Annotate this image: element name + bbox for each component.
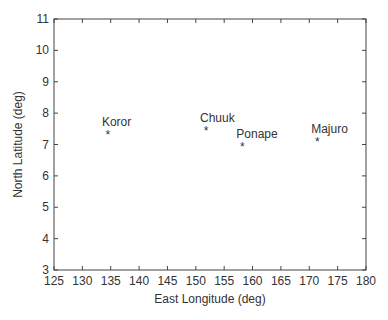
- data-point-marker: *: [240, 140, 245, 154]
- x-tick-label: 165: [271, 274, 291, 288]
- y-tick-label: 11: [37, 12, 50, 26]
- x-tick-label: 175: [328, 274, 348, 288]
- y-axis-label: North Latitude (deg): [11, 91, 25, 198]
- x-tick-label: 170: [299, 274, 319, 288]
- y-tick-label: 3: [42, 263, 49, 277]
- data-point-marker: *: [106, 128, 111, 142]
- x-tick-label: 180: [356, 274, 376, 288]
- y-tick-label: 9: [42, 75, 49, 89]
- x-tick-label: 135: [101, 274, 121, 288]
- chart: 1251301351401451501551601651701751803456…: [0, 0, 388, 320]
- y-tick-label: 8: [42, 106, 49, 120]
- x-axis-label: East Longitude (deg): [154, 292, 265, 306]
- data-point-label: Ponape: [236, 127, 278, 141]
- scatter-plot: 1251301351401451501551601651701751803456…: [0, 0, 388, 320]
- x-tick-label: 160: [243, 274, 263, 288]
- y-tick-label: 10: [36, 43, 50, 57]
- data-point-label: Majuro: [311, 122, 348, 136]
- x-tick-label: 145: [157, 274, 177, 288]
- y-tick-label: 6: [42, 169, 49, 183]
- data-point-marker: *: [315, 135, 320, 149]
- y-tick-label: 4: [42, 232, 49, 246]
- y-tick-label: 5: [42, 200, 49, 214]
- data-point-label: Koror: [102, 115, 131, 129]
- data-point-marker: *: [204, 124, 209, 138]
- x-tick-label: 155: [214, 274, 234, 288]
- data-point-label: Chuuk: [200, 111, 236, 125]
- x-tick-label: 150: [186, 274, 206, 288]
- y-tick-label: 7: [42, 138, 49, 152]
- x-tick-label: 130: [72, 274, 92, 288]
- x-tick-label: 140: [129, 274, 149, 288]
